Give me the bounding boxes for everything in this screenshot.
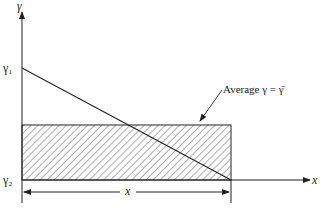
y-axis-label: γ: [17, 0, 22, 13]
average-annotation: Average γ = γ̄: [223, 83, 286, 95]
gamma1-label: γ₁: [2, 61, 13, 75]
gamma2-label: γ₂: [2, 173, 13, 187]
average-area-rect: [22, 125, 231, 180]
x-axis-label: x: [311, 173, 318, 187]
dimension-label: x: [124, 184, 131, 198]
average-gamma-diagram: γ γ₁ γ₂ x x Average γ = γ̄: [0, 0, 325, 213]
annotation-leader: [200, 90, 222, 121]
